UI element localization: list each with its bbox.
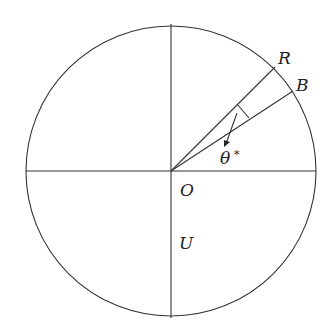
theta-arrow-head — [224, 140, 230, 147]
ray-OB — [171, 91, 293, 171]
label-R: R — [277, 48, 291, 68]
label-B: B — [295, 75, 309, 95]
label-theta-star: * — [234, 148, 240, 161]
circle-diagram: R B θ * O U — [0, 0, 335, 336]
label-theta: θ — [220, 148, 230, 168]
wedge-crossbar — [237, 104, 249, 118]
label-U: U — [179, 233, 194, 253]
label-O: O — [180, 180, 194, 200]
theta-arrow-shaft — [227, 113, 237, 141]
